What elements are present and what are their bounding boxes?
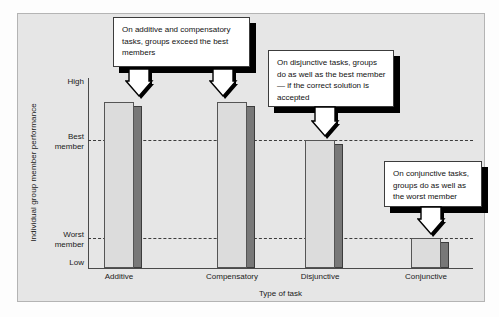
bar-conjunctive: [411, 238, 441, 268]
bar-side-disjunctive: [334, 144, 343, 268]
x-tick-conjunctive: Conjunctive: [378, 272, 474, 281]
bar-additive: [104, 102, 134, 268]
y-axis-title: Individual group member performance: [29, 78, 38, 268]
x-axis-title: Type of task: [88, 289, 473, 298]
arrow-down-icon-disjunctive: [311, 105, 341, 141]
bar-side-compensatory: [246, 106, 255, 268]
callout-text: On conjunctive tasks, groups do as well …: [384, 161, 482, 207]
bar-side-conjunctive: [440, 242, 449, 268]
callout-text: On additive and compensatory tasks, grou…: [113, 17, 250, 67]
x-tick-disjunctive: Disjunctive: [272, 272, 368, 281]
bar-compensatory: [217, 102, 247, 268]
x-tick-additive: Additive: [71, 272, 167, 281]
callout-additive-compensatory: On additive and compensatory tasks, grou…: [113, 17, 250, 67]
callout-disjunctive: On disjunctive tasks, groups do as well …: [268, 50, 394, 107]
arrow-down-icon-conjunctive: [417, 205, 447, 239]
arrow-down-icon-compensatory: [209, 65, 239, 101]
arrow-down-icon-additive: [125, 65, 155, 101]
x-axis-line: [88, 268, 473, 269]
callout-conjunctive: On conjunctive tasks, groups do as well …: [384, 161, 482, 207]
plot-area: High Best member Worst member Low Indivi…: [0, 0, 499, 317]
callout-text: On disjunctive tasks, groups do as well …: [268, 50, 394, 107]
figure-root: High Best member Worst member Low Indivi…: [0, 0, 499, 317]
reference-line-best-member: [88, 140, 473, 141]
bar-disjunctive: [305, 140, 335, 268]
y-axis-line: [88, 78, 89, 268]
bar-side-additive: [133, 106, 142, 268]
x-tick-compensatory: Compensatory: [184, 272, 280, 281]
